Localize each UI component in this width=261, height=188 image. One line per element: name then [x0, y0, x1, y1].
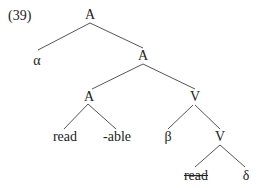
edge-root-alpha: [38, 23, 90, 50]
edge-v4-read: [195, 145, 220, 167]
edge-a2-a3: [92, 64, 143, 89]
node-v-level3: V: [190, 90, 200, 104]
edge-a2-v3: [143, 64, 195, 89]
edge-v3-beta: [168, 105, 193, 129]
node-alpha: α: [33, 54, 40, 68]
node-beta: β: [164, 130, 171, 144]
node-delta: δ: [243, 169, 250, 183]
edge-a3-read: [64, 104, 88, 129]
node-able: -able: [103, 130, 131, 144]
tree-edges: [0, 0, 261, 188]
node-read-deleted: read: [184, 169, 208, 183]
node-a-level3: A: [84, 90, 94, 104]
node-root-a: A: [85, 8, 95, 22]
node-a-level2: A: [138, 49, 148, 63]
node-read: read: [53, 130, 77, 144]
edge-root-a2: [90, 23, 143, 48]
example-number: (39): [8, 9, 31, 23]
edge-v3-v4: [195, 105, 220, 129]
node-v-level4: V: [215, 130, 225, 144]
edge-a3-able: [88, 104, 116, 129]
edge-v4-delta: [220, 145, 245, 167]
